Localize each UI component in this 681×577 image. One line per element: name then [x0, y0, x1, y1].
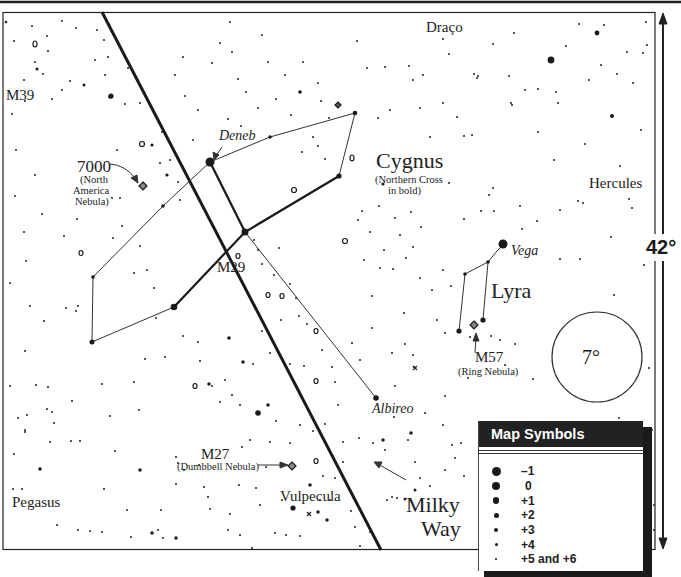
label-m57: M57 [475, 350, 503, 365]
label-draco: Draço [426, 20, 463, 35]
legend-item: +2 [479, 508, 643, 523]
label-deneb: Deneb [219, 129, 256, 143]
label-m27: M27 [201, 447, 229, 462]
label-lyra: Lyra [491, 280, 531, 302]
label-cygnus: Cygnus [376, 150, 443, 172]
label-pegasus: Pegasus [12, 495, 60, 510]
label-albireo: Albireo [372, 402, 413, 416]
label-milky-way-2: Way [421, 518, 461, 540]
label-vulpecula: Vulpecula [280, 489, 341, 504]
label-m57-note: (Ring Nebula) [458, 366, 518, 378]
legend-item: –1 [479, 464, 643, 479]
label-ngc7000: 7000 [77, 158, 111, 175]
star-magnitude-icon [495, 543, 498, 546]
legend-item: +1 [479, 493, 643, 508]
northern-cross-lines [174, 162, 339, 307]
star-magnitude-icon [492, 467, 501, 476]
scale-label: 42° [646, 234, 676, 261]
label-ngc7000-note-3: Nebula) [75, 196, 109, 208]
star-magnitude-icon [493, 497, 500, 504]
legend-item: +4 [479, 537, 643, 552]
legend-item: +5 and +6 [479, 552, 643, 567]
label-m39: M39 [6, 88, 34, 103]
legend-list: –1 0 +1 +2 +3 +4 +5 and +6 [479, 454, 643, 567]
label-m27-note: (Dumbbell Nebula) [177, 461, 259, 473]
label-m29: M29 [217, 260, 245, 275]
star-magnitude-icon [495, 558, 497, 560]
star-magnitude-icon [494, 513, 499, 518]
label-milky-way-1: Milky [406, 494, 460, 516]
scale-arrow [659, 13, 667, 549]
label-hercules: Hercules [589, 176, 642, 191]
map-symbols-legend: Map Symbols –1 0 +1 +2 +3 +4 +5 and +6 [478, 421, 648, 571]
label-cygnus-note-2: in bold) [388, 185, 421, 197]
legend-item: 0 [479, 479, 643, 494]
legend-panel: Map Symbols –1 0 +1 +2 +3 +4 +5 and +6 [478, 421, 643, 571]
legend-item: +3 [479, 523, 643, 538]
star-magnitude-icon [492, 482, 500, 490]
cygnus-lines [92, 113, 376, 398]
star-magnitude-icon [494, 528, 498, 532]
field-of-view-label: 7° [582, 346, 600, 369]
legend-title: Map Symbols [479, 421, 643, 447]
label-vega: Vega [511, 244, 538, 258]
